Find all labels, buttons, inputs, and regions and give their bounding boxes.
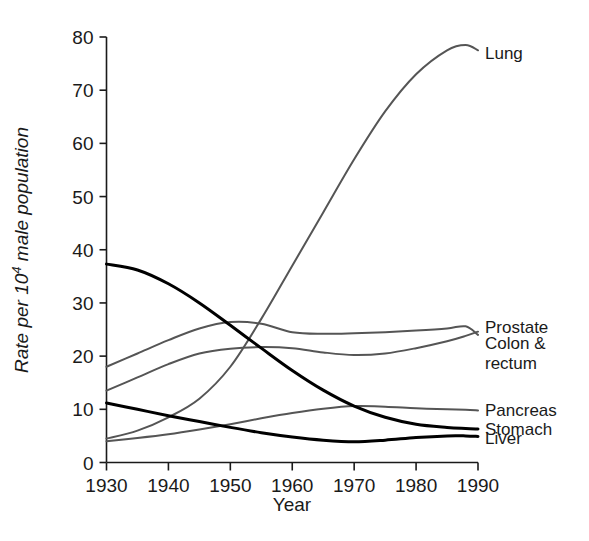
y-tick-label: 50 xyxy=(72,187,93,208)
x-tick-label: 1930 xyxy=(85,475,127,496)
cancer-mortality-line-chart: 01020304050607080 1930194019501960197019… xyxy=(0,0,589,541)
y-tick-label: 20 xyxy=(72,346,93,367)
y-axis-title-tail: male population xyxy=(11,127,32,261)
y-tick-label: 30 xyxy=(72,293,93,314)
y-tick-label: 0 xyxy=(83,453,94,474)
x-tick-label: 1940 xyxy=(147,475,189,496)
y-tick-label: 60 xyxy=(72,133,93,154)
y-tick-label: 70 xyxy=(72,80,93,101)
x-axis-title: Year xyxy=(273,494,312,515)
x-tick-label: 1960 xyxy=(271,475,313,496)
svg-text:Rate per 104 male population: Rate per 104 male population xyxy=(9,127,32,373)
y-tick-label: 40 xyxy=(72,240,93,261)
series-label-pancreas: Pancreas xyxy=(485,401,557,420)
series-label-lung: Lung xyxy=(485,44,523,63)
y-tick-label: 10 xyxy=(72,399,93,420)
y-tick-label: 80 xyxy=(72,27,93,48)
y-axis-title-exponent: 4 xyxy=(9,266,24,273)
x-tick-label: 1970 xyxy=(333,475,375,496)
series-label-liver: Liver xyxy=(485,429,522,448)
y-axis-title: Rate per 104 male population xyxy=(9,127,32,373)
y-axis-title-main: Rate per 10 xyxy=(11,273,32,373)
x-tick-label: 1950 xyxy=(209,475,251,496)
x-tick-label: 1990 xyxy=(457,475,499,496)
chart-root: 01020304050607080 1930194019501960197019… xyxy=(0,0,589,541)
x-tick-label: 1980 xyxy=(395,475,437,496)
